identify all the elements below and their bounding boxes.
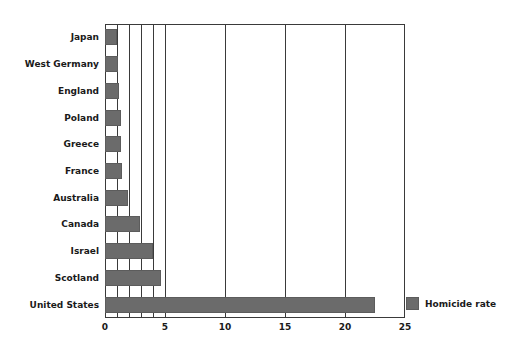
- bar-australia: [105, 190, 128, 206]
- x-tick-label-5: 5: [162, 322, 168, 333]
- bars-layer: [105, 24, 405, 318]
- bar-england: [105, 83, 119, 99]
- category-label-australia: Australia: [0, 193, 99, 203]
- category-axis-labels: JapanWest GermanyEnglandPolandGreeceFran…: [0, 24, 99, 318]
- bar-france: [105, 163, 122, 179]
- category-label-england: England: [0, 86, 99, 96]
- bar-west-germany: [105, 56, 118, 72]
- category-label-france: France: [0, 166, 99, 176]
- bar-japan: [105, 29, 117, 45]
- category-label-united-states: United States: [0, 300, 99, 310]
- category-label-west-germany: West Germany: [0, 59, 99, 69]
- bar-israel: [105, 243, 153, 259]
- bar-row: [105, 297, 405, 313]
- x-tick-label-10: 10: [219, 322, 232, 333]
- x-tick-label-25: 25: [399, 322, 412, 333]
- category-label-japan: Japan: [0, 32, 99, 42]
- bar-row: [105, 216, 405, 232]
- bar-row: [105, 56, 405, 72]
- category-label-scotland: Scotland: [0, 273, 99, 283]
- legend-swatch-homicide-rate: [406, 297, 419, 310]
- bar-canada: [105, 216, 140, 232]
- bar-row: [105, 29, 405, 45]
- bar-row: [105, 163, 405, 179]
- bar-row: [105, 83, 405, 99]
- x-tick-label-0: 0: [102, 322, 108, 333]
- bar-greece: [105, 136, 121, 152]
- chart-legend: Homicide rate: [406, 297, 496, 310]
- category-label-canada: Canada: [0, 219, 99, 229]
- value-axis-tick-labels: 0510152025: [105, 322, 405, 338]
- bar-poland: [105, 110, 121, 126]
- bar-row: [105, 110, 405, 126]
- bar-united-states: [105, 297, 375, 313]
- x-tick-label-20: 20: [339, 322, 352, 333]
- legend-label-homicide-rate: Homicide rate: [425, 299, 496, 309]
- category-label-poland: Poland: [0, 113, 99, 123]
- bar-scotland: [105, 270, 161, 286]
- bar-chart: JapanWest GermanyEnglandPolandGreeceFran…: [0, 0, 510, 363]
- category-label-greece: Greece: [0, 139, 99, 149]
- bar-row: [105, 243, 405, 259]
- bar-row: [105, 190, 405, 206]
- bar-row: [105, 136, 405, 152]
- category-label-israel: Israel: [0, 246, 99, 256]
- x-tick-label-15: 15: [279, 322, 292, 333]
- bar-row: [105, 270, 405, 286]
